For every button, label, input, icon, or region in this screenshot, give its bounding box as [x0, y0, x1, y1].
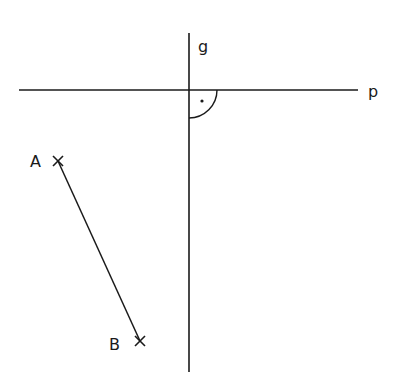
label-b: B	[109, 335, 120, 354]
label-p: p	[368, 82, 378, 101]
segment-ab	[58, 161, 140, 341]
diagram-canvas: g p A B	[0, 0, 405, 384]
geometry-figure: g p A B	[0, 0, 405, 384]
right-angle-dot	[200, 99, 203, 102]
point-a-cross-icon	[53, 156, 63, 166]
label-g: g	[198, 37, 208, 56]
point-b-cross-icon	[135, 336, 145, 346]
right-angle-arc	[189, 90, 217, 118]
label-a: A	[30, 152, 41, 171]
